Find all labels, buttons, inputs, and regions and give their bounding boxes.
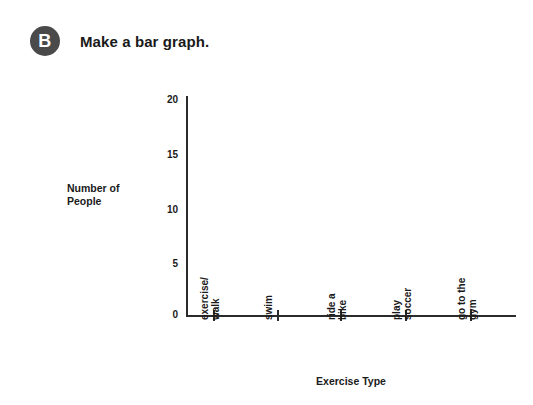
x-label-exercise-walk: exercise/ walk: [186, 320, 212, 380]
x-label-go-to-the-gym: go to the gym: [443, 320, 469, 380]
y-tick-5: 5: [148, 259, 178, 269]
x-label-ride-a-bike: ride a bike: [313, 320, 339, 380]
y-axis-title-line1: Number of: [67, 182, 120, 194]
y-tick-15: 15: [148, 150, 178, 160]
x-label-line: exercise/: [199, 260, 210, 320]
y-tick-label: 10: [148, 205, 178, 215]
x-label-line: play: [391, 260, 402, 320]
bar-graph-worksheet: 20 15 10 5 0 Number of People exercise/ …: [0, 0, 533, 405]
x-label-line: walk: [210, 260, 221, 320]
y-tick-10: 10: [148, 205, 178, 215]
y-tick-0: 0: [148, 310, 178, 320]
y-axis-line: [186, 96, 188, 317]
y-tick-label: 0: [148, 310, 178, 320]
x-tick-2: [277, 310, 279, 321]
x-label-line: gym: [467, 260, 478, 320]
x-label-line: swim: [263, 260, 274, 320]
x-label-line: go to the: [456, 260, 467, 320]
x-label-swim: swim: [250, 320, 276, 380]
x-label-line: bike: [337, 260, 348, 320]
y-tick-20: 20: [148, 95, 178, 105]
y-axis-title: Number of People: [67, 182, 147, 208]
x-label-line: soccer: [402, 260, 413, 320]
y-axis-title-line2: People: [67, 195, 101, 207]
x-label-play-soccer: play soccer: [378, 320, 404, 380]
y-tick-label: 5: [148, 259, 178, 269]
y-tick-label: 20: [148, 95, 178, 105]
x-label-line: ride a: [326, 260, 337, 320]
y-tick-label: 15: [148, 150, 178, 160]
x-axis-title: Exercise Type: [186, 375, 516, 387]
